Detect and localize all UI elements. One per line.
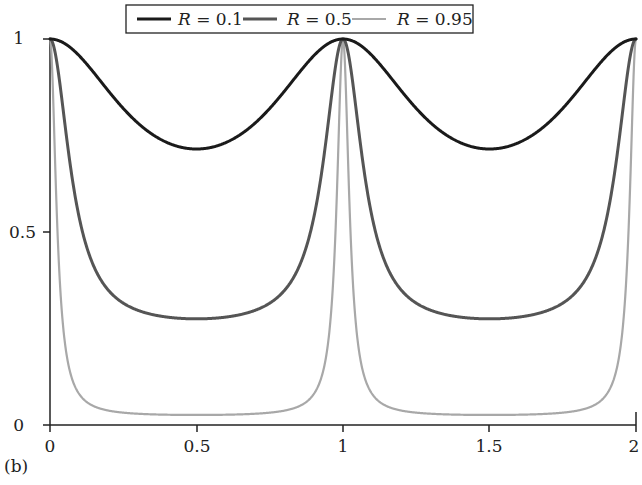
plot-lines	[50, 39, 636, 415]
x-tick-labels: 0 0.5 1 1.5 2	[45, 436, 640, 456]
line-r05	[50, 39, 636, 319]
svg-text:2: 2	[629, 436, 640, 456]
svg-text:0: 0	[13, 415, 24, 435]
transmission-chart: R = 0.1 R = 0.5 R = 0.95 1 0.5 0 0 0.5 1…	[0, 0, 642, 485]
panel-label: (b)	[4, 456, 28, 476]
y-tick-labels: 1 0.5 0	[9, 28, 36, 435]
legend-label-r01: R = 0.1	[177, 9, 243, 29]
svg-text:1: 1	[13, 28, 24, 48]
svg-text:0.5: 0.5	[9, 222, 36, 242]
legend-label-r095: R = 0.95	[396, 9, 473, 29]
svg-text:1.5: 1.5	[475, 436, 502, 456]
svg-text:1: 1	[338, 436, 349, 456]
svg-text:0: 0	[45, 436, 56, 456]
line-r01	[50, 39, 636, 149]
line-r095	[50, 39, 636, 415]
legend: R = 0.1 R = 0.5 R = 0.95	[126, 5, 473, 33]
svg-text:0.5: 0.5	[183, 436, 210, 456]
legend-label-r05: R = 0.5	[286, 9, 352, 29]
